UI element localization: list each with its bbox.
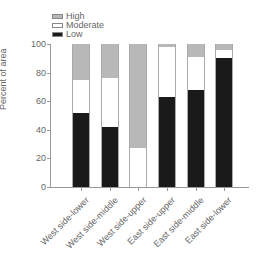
bar-west-side-lower <box>72 44 90 187</box>
y-tick <box>47 158 51 159</box>
y-tick-label: 20 <box>22 153 46 163</box>
bar-segment-low <box>102 127 118 187</box>
legend-swatch <box>52 14 63 19</box>
legend-swatch <box>52 23 63 28</box>
bar-segment-high <box>188 44 204 57</box>
legend-label: Low <box>66 30 83 39</box>
y-tick <box>47 101 51 102</box>
plot-area: 020406080100West side-lowerWest side-mid… <box>50 44 249 188</box>
bar-segment-low <box>216 58 232 187</box>
bar-segment-low <box>188 90 204 187</box>
legend-item-low: Low <box>52 30 104 39</box>
bar-segment-high <box>73 44 89 80</box>
x-tick <box>110 187 111 191</box>
y-tick-label: 0 <box>22 182 46 192</box>
bar-segment-high <box>130 44 146 148</box>
x-tick-label: West side-upper <box>95 195 148 248</box>
y-tick <box>47 130 51 131</box>
bar-segment-moderate <box>216 50 232 59</box>
y-tick <box>47 187 51 188</box>
y-tick-label: 60 <box>22 96 46 106</box>
bar-segment-moderate <box>188 57 204 90</box>
y-tick <box>47 73 51 74</box>
y-tick-label: 40 <box>22 125 46 135</box>
bar-segment-moderate <box>102 78 118 127</box>
bar-segment-low <box>159 97 175 187</box>
bar-west-side-upper <box>129 44 147 187</box>
x-tick <box>81 187 82 191</box>
legend-swatch <box>52 32 63 37</box>
x-tick <box>196 187 197 191</box>
y-axis-title: Percent of area <box>0 48 8 110</box>
bar-west-side-middle <box>101 44 119 187</box>
y-tick <box>47 44 51 45</box>
bar-east-side-lower <box>215 44 233 187</box>
x-tick <box>138 187 139 191</box>
y-tick-label: 80 <box>22 68 46 78</box>
bar-east-side-upper <box>158 44 176 187</box>
chart-legend: HighModerateLow <box>52 12 104 39</box>
bar-segment-moderate <box>73 80 89 113</box>
x-tick <box>224 187 225 191</box>
bar-segment-low <box>73 113 89 187</box>
bar-segment-moderate <box>159 47 175 97</box>
bar-east-side-middle <box>187 44 205 187</box>
bar-segment-moderate <box>130 148 146 187</box>
bar-segment-high <box>102 44 118 78</box>
x-tick-label: West side-lower <box>39 195 91 247</box>
x-tick <box>167 187 168 191</box>
y-tick-label: 100 <box>22 39 46 49</box>
